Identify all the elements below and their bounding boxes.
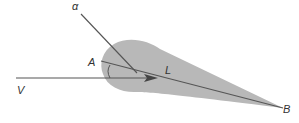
- label-b: B: [283, 103, 290, 115]
- label-alpha: α: [72, 0, 79, 12]
- shaded-teardrop-region: [101, 40, 283, 108]
- label-a: A: [87, 56, 95, 68]
- diagram-canvas: α A L V B: [0, 0, 299, 123]
- label-v: V: [17, 84, 26, 96]
- label-l: L: [165, 64, 171, 76]
